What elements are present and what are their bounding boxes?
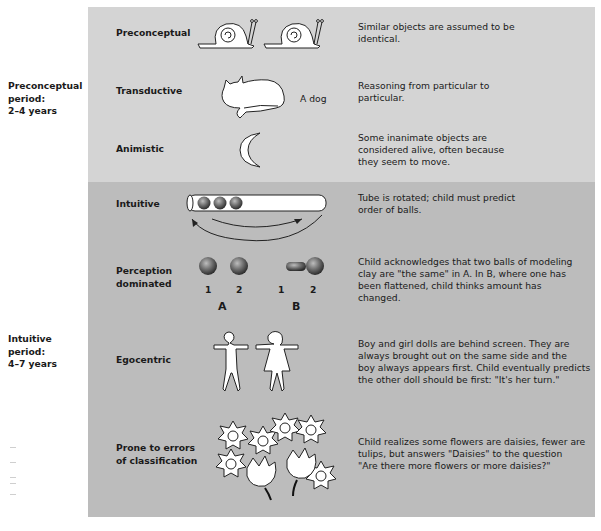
description-line: Tube is rotated; child must predict: [358, 192, 593, 204]
boy-doll-icon: [214, 332, 248, 391]
description-line: Boy and girl dolls are behind screen. Th…: [358, 338, 593, 350]
two-snails-illustration: [196, 18, 336, 52]
clay-ball-icon: [199, 257, 217, 275]
stage-animistic: Animistic: [116, 143, 164, 156]
girl-doll-icon: [256, 332, 298, 392]
stage-transductive: Transductive: [116, 85, 182, 98]
description-line: order of balls.: [358, 204, 593, 216]
flowers-illustration: [213, 416, 343, 506]
description-line: they seem to move.: [358, 156, 593, 168]
ball-icon: [198, 197, 211, 210]
period-age-range: 4–7 years: [8, 358, 57, 371]
ball-icon: [230, 197, 243, 210]
description-perception-dominated: Child acknowledges that two balls of mod…: [358, 256, 593, 304]
cat-caption: A dog: [300, 93, 327, 104]
description-line: Some inanimate objects are: [358, 132, 593, 144]
tube-illustration: [184, 193, 330, 241]
stage-line: Prone to errors: [116, 442, 197, 455]
period-title: period:: [8, 93, 82, 106]
ball-label-b2: 2: [310, 284, 316, 295]
daisy-icon: [216, 449, 246, 477]
margin-mark: [10, 462, 16, 463]
ball-icon: [214, 197, 227, 210]
description-line: the other doll should be first: "It's he…: [358, 374, 593, 386]
group-label-a: A: [218, 300, 227, 313]
daisy-icon: [218, 421, 248, 449]
stage-intuitive: Intuitive: [116, 198, 160, 211]
description-transductive: Reasoning from particular to particular.: [358, 80, 593, 104]
description-line: Child realizes some flowers are daisies,…: [358, 436, 593, 448]
stage-classification: Prone to errors of classification: [116, 442, 197, 467]
description-line: always brought out on the same side and …: [358, 350, 593, 362]
description-animistic: Some inanimate objects are considered al…: [358, 132, 593, 168]
daisy-icon: [296, 415, 326, 443]
stage-preconceptual: Preconceptual: [116, 27, 190, 40]
rotation-arrow-icon: [192, 215, 322, 241]
clay-balls-illustration: [196, 255, 326, 277]
snail-icon: [198, 20, 257, 48]
clay-ball-icon: [306, 257, 324, 275]
cat-illustration: [220, 74, 286, 118]
group-label-b: B: [292, 300, 300, 313]
description-preconceptual: Similar objects are assumed to be identi…: [358, 21, 593, 45]
rotation-arrow-icon: [212, 219, 302, 227]
description-line: particular.: [358, 92, 593, 104]
dolls-illustration: [212, 331, 302, 395]
description-classification: Child realizes some flowers are daisies,…: [358, 436, 593, 472]
description-line: clay are "the same" in A. In B, where on…: [358, 268, 593, 280]
stage-line: of classification: [116, 455, 197, 468]
description-line: boy always appears first. Child eventual…: [358, 362, 593, 374]
ball-label-a1: 1: [205, 284, 211, 295]
period-label-preconceptual: Preconceptual period: 2–4 years: [8, 80, 82, 118]
description-line: identical.: [358, 33, 593, 45]
stage-line: Perception: [116, 265, 172, 278]
description-line: Reasoning from particular to: [358, 80, 593, 92]
daisy-icon: [270, 413, 300, 441]
description-line: Similar objects are assumed to be: [358, 21, 593, 33]
clay-ball-icon: [230, 257, 248, 275]
description-line: been flattened, child thinks amount has: [358, 280, 593, 292]
description-line: changed.: [358, 292, 593, 304]
margin-mark: [10, 483, 16, 484]
margin-mark: [10, 447, 16, 448]
period-age-range: 2–4 years: [8, 105, 82, 118]
period-title: period:: [8, 346, 57, 359]
stage-egocentric: Egocentric: [116, 354, 171, 367]
description-line: tulips, but answers "Daisies" to the que…: [358, 448, 593, 460]
period-title: Preconceptual: [8, 80, 82, 93]
period-label-intuitive: Intuitive period: 4–7 years: [8, 333, 57, 371]
margin-mark: [10, 494, 16, 495]
description-line: considered alive, often because: [358, 144, 593, 156]
stage-perception-dominated: Perception dominated: [116, 265, 172, 290]
moon-icon: [240, 133, 260, 167]
cat-icon: [222, 76, 284, 118]
description-egocentric: Boy and girl dolls are behind screen. Th…: [358, 338, 593, 386]
period-title: Intuitive: [8, 333, 57, 346]
description-line: "Are there more flowers or more daisies?…: [358, 460, 593, 472]
ball-label-b1: 1: [278, 284, 284, 295]
stage-line: dominated: [116, 278, 172, 291]
crescent-moon-illustration: [238, 132, 262, 168]
tulip-icon: [247, 456, 276, 486]
description-line: Child acknowledges that two balls of mod…: [358, 256, 593, 268]
margin-mark: [10, 477, 16, 478]
flattened-clay-icon: [286, 262, 306, 271]
snail-icon: [264, 20, 323, 48]
description-intuitive: Tube is rotated; child must predict orde…: [358, 192, 593, 216]
tulip-icon: [287, 448, 316, 478]
ball-label-a2: 2: [236, 284, 242, 295]
